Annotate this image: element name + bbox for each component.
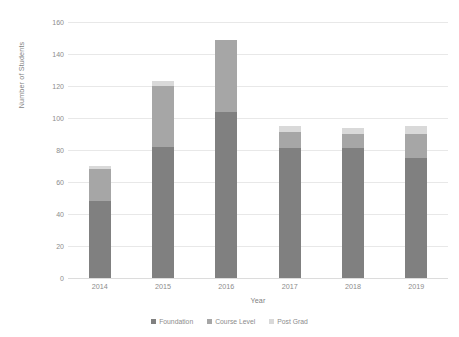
chart-legend: FoundationCourse LevelPost Grad: [0, 318, 459, 325]
gridline: [68, 278, 448, 279]
bar-segment-foundation[interactable]: [279, 148, 301, 278]
legend-label: Post Grad: [277, 318, 308, 325]
bar-group[interactable]: [89, 166, 111, 278]
bar-segment-course-level[interactable]: [215, 40, 237, 112]
legend-item[interactable]: Foundation: [151, 318, 193, 325]
bar-segment-course-level[interactable]: [89, 169, 111, 201]
bar-segment-post-grad[interactable]: [342, 128, 364, 134]
y-axis-tick-label: 160: [36, 19, 64, 26]
bar-group[interactable]: [342, 128, 364, 278]
y-axis-tick-label: 20: [36, 243, 64, 250]
x-axis-tick-label: 2018: [323, 282, 383, 291]
x-axis-tick-label: 2015: [133, 282, 193, 291]
bar-segment-course-level[interactable]: [405, 134, 427, 158]
y-axis-tick-label: 100: [36, 115, 64, 122]
bar-segment-foundation[interactable]: [152, 147, 174, 278]
plot-area: [68, 22, 448, 278]
bar-segment-course-level[interactable]: [342, 134, 364, 148]
bar-group[interactable]: [405, 126, 427, 278]
bar-segment-foundation[interactable]: [342, 148, 364, 278]
bar-segment-post-grad[interactable]: [89, 166, 111, 169]
bar-segment-foundation[interactable]: [89, 201, 111, 278]
bar-group[interactable]: [215, 40, 237, 278]
legend-label: Foundation: [159, 318, 193, 325]
y-axis-title: Number of Students: [17, 15, 26, 135]
x-axis-tick-label: 2019: [386, 282, 446, 291]
y-axis-tick-label: 40: [36, 211, 64, 218]
x-axis-title: Year: [68, 296, 448, 305]
stacked-bar-chart: Number of Students 020406080100120140160…: [0, 0, 459, 337]
bar-segment-course-level[interactable]: [279, 132, 301, 148]
x-axis-tick-labels: 201420152016201720182019: [68, 282, 448, 296]
x-axis-tick-label: 2016: [196, 282, 256, 291]
legend-item[interactable]: Course Level: [207, 318, 255, 325]
bar-group[interactable]: [279, 126, 301, 278]
bar-segment-post-grad[interactable]: [405, 126, 427, 134]
legend-swatch-icon: [207, 319, 212, 324]
y-axis-tick-labels: 020406080100120140160: [36, 22, 64, 278]
bar-segment-post-grad[interactable]: [279, 126, 301, 132]
bar-segment-post-grad[interactable]: [152, 81, 174, 86]
x-axis-tick-label: 2017: [260, 282, 320, 291]
y-axis-tick-label: 0: [36, 275, 64, 282]
legend-swatch-icon: [151, 319, 156, 324]
legend-swatch-icon: [269, 319, 274, 324]
x-axis-tick-label: 2014: [70, 282, 130, 291]
y-axis-tick-label: 80: [36, 147, 64, 154]
bar-group[interactable]: [152, 81, 174, 278]
y-axis-tick-label: 60: [36, 179, 64, 186]
bar-segment-foundation[interactable]: [405, 158, 427, 278]
legend-label: Course Level: [215, 318, 255, 325]
bars-layer: [68, 22, 448, 278]
legend-item[interactable]: Post Grad: [269, 318, 308, 325]
bar-segment-course-level[interactable]: [152, 86, 174, 147]
bar-segment-foundation[interactable]: [215, 112, 237, 278]
y-axis-tick-label: 140: [36, 51, 64, 58]
y-axis-tick-label: 120: [36, 83, 64, 90]
